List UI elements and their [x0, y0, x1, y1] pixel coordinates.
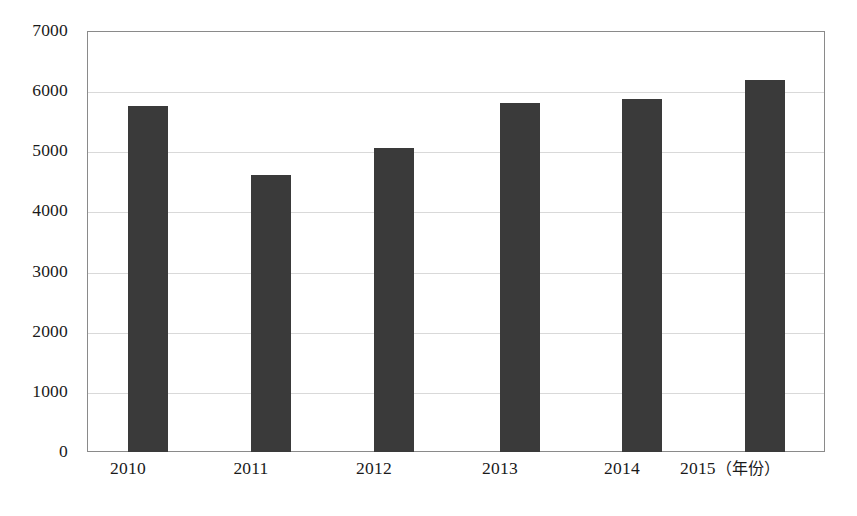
bar-2010 — [128, 106, 168, 452]
x-tick-year: 2013 — [482, 458, 518, 478]
y-axis-tick-label: 2000 — [0, 323, 68, 341]
y-axis-tick-label: 5000 — [0, 142, 68, 160]
y-axis-tick-label: 7000 — [0, 22, 68, 40]
y-axis-tick-label: 1000 — [0, 383, 68, 401]
bars-layer — [87, 31, 825, 452]
x-axis-tick-label-2012: 2012 — [324, 460, 424, 478]
x-tick-year: 2014 — [604, 458, 640, 478]
y-axis-tick-label: 3000 — [0, 263, 68, 281]
x-axis-tick-label-2015: 2015（年份） — [680, 460, 840, 478]
bar-2015 — [745, 80, 785, 452]
x-tick-year: 2010 — [110, 458, 146, 478]
x-axis-tick-label-2014: 2014 — [572, 460, 672, 478]
y-axis-tick-label: 6000 — [0, 82, 68, 100]
x-axis-tick-label-2011: 2011 — [201, 460, 301, 478]
bar-2013 — [500, 103, 540, 452]
bar-2011 — [251, 175, 291, 452]
x-axis-unit-annotation: （年份） — [716, 459, 781, 478]
x-axis-tick-label-2013: 2013 — [450, 460, 550, 478]
x-tick-year: 2015 — [680, 458, 716, 478]
x-axis-tick-label-2010: 2010 — [78, 460, 178, 478]
y-axis-tick-label: 4000 — [0, 202, 68, 220]
x-tick-year: 2011 — [233, 458, 268, 478]
bar-chart: 7000 6000 5000 4000 3000 2000 1000 0 201… — [0, 0, 857, 516]
bar-2014 — [622, 99, 662, 452]
y-axis-tick-label: 0 — [0, 443, 68, 461]
bar-2012 — [374, 148, 414, 452]
x-tick-year: 2012 — [356, 458, 392, 478]
